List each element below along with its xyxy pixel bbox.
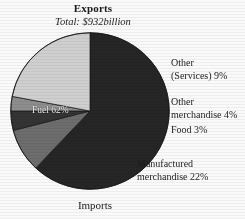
slice-label-other-services: Other (Services) 9%	[171, 57, 227, 82]
slice-label-food: Food 3%	[171, 124, 207, 137]
slice-label-food-line1: Food 3%	[171, 124, 207, 137]
pie-chart-figure: Exports Total: $932billion Fuel 62% Othe…	[0, 0, 245, 219]
slice-label-other-services-line2: (Services) 9%	[171, 70, 227, 83]
slice-label-fuel: Fuel 62%	[32, 105, 69, 115]
title-block: Exports Total: $932billion	[0, 2, 186, 28]
slice-label-other-merchandise-line2: merchandise 4%	[171, 109, 237, 122]
slice-label-manufactured-merchandise-line1: Manufactured	[137, 158, 243, 171]
slice-label-other-merchandise-line1: Other	[171, 96, 237, 109]
slice-label-other-merchandise: Other merchandise 4%	[171, 96, 237, 121]
slice-label-other-services-line1: Other	[171, 57, 227, 70]
chart-subtitle-total: Total: $932billion	[0, 15, 186, 28]
slice-label-manufactured-merchandise: Manufactured merchandise 22%	[137, 158, 243, 183]
bottom-caption-imports: Imports	[0, 198, 190, 212]
slice-label-manufactured-merchandise-line2: merchandise 22%	[137, 171, 243, 184]
chart-title: Exports	[0, 2, 186, 15]
